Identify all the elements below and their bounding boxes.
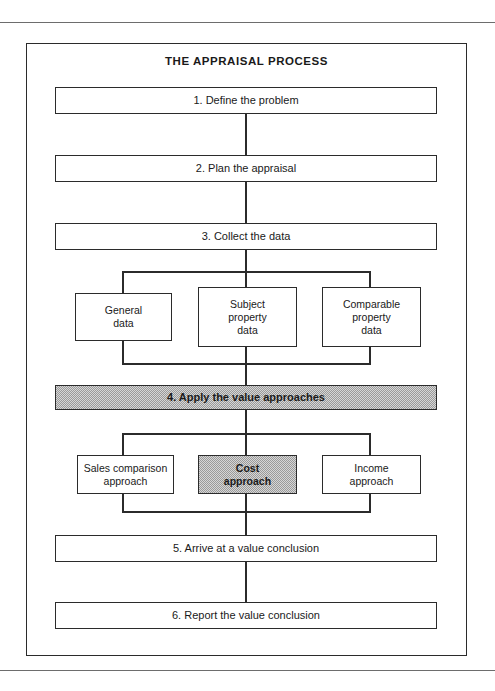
step-box-2[interactable]: 2. Plan the appraisal [55,155,437,182]
connector-step5-step6 [245,562,247,602]
connector-data-out-left [122,339,124,365]
connector-approach-out-left [122,492,124,513]
approach-label-sales-line1: Sales comparison [84,462,167,475]
data-label-subject-line2: property [228,311,267,324]
data-box-general[interactable]: General data [75,293,172,341]
step-label-1: 1. Define the problem [193,94,298,107]
data-box-comparable-property[interactable]: Comparable property data [322,287,421,347]
data-label-general-line2: data [105,317,142,330]
data-label-comparable-line1: Comparable [343,298,400,311]
approach-label-cost-line2: approach [222,475,273,488]
approach-label-income-line1: Income [350,462,394,475]
approach-box-sales-comparison[interactable]: Sales comparison approach [77,455,174,494]
step-label-3: 3. Collect the data [202,230,291,243]
approach-label-sales-comparison: Sales comparison approach [84,462,167,488]
figure-page: THE APPRAISAL PROCESS 1. Define the prob… [0,0,495,691]
step-label-5: 5. Arrive at a value conclusion [173,542,319,555]
approach-label-sales-line2: approach [84,475,167,488]
approach-box-cost[interactable]: Cost approach [198,455,297,494]
page-rule-bottom [0,670,495,671]
data-label-comparable: Comparable property data [343,298,400,337]
step-label-6: 6. Report the value conclusion [172,609,320,622]
data-label-comparable-line3: data [343,324,400,337]
connector-data-step4-stem [245,363,247,385]
data-label-general-line1: General [105,304,142,317]
data-label-general: General data [105,304,142,330]
step-label-4: 4. Apply the value approaches [165,391,327,404]
step-label-2: 2. Plan the appraisal [196,162,296,175]
connector-data-leg-left [122,271,124,295]
connector-approach-step5-stem [245,511,247,535]
connector-step1-step2 [245,114,247,155]
approach-label-income: Income approach [350,462,394,488]
connector-data-out-right [369,345,371,365]
connector-data-out-center [245,345,247,365]
step-box-5[interactable]: 5. Arrive at a value conclusion [55,535,437,562]
data-box-subject-property[interactable]: Subject property data [198,287,297,347]
connector-approach-out-center [245,492,247,513]
data-label-comparable-line2: property [343,311,400,324]
step-box-1[interactable]: 1. Define the problem [55,87,437,114]
connector-step4-stem [245,410,247,435]
connector-approach-leg-center [245,433,247,455]
data-label-subject: Subject property data [228,298,267,337]
approach-box-income[interactable]: Income approach [322,455,421,494]
step-box-3[interactable]: 3. Collect the data [55,223,437,250]
step-box-6[interactable]: 6. Report the value conclusion [55,602,437,629]
connector-step3-stem [245,250,247,273]
approach-label-income-line2: approach [350,475,394,488]
connector-approach-leg-left [122,433,124,455]
step-box-4[interactable]: 4. Apply the value approaches [55,385,437,410]
approach-label-cost: Cost approach [222,462,273,488]
connector-approach-leg-right [369,433,371,455]
page-rule-top [0,22,495,23]
figure-title: THE APPRAISAL PROCESS [26,54,467,68]
data-label-subject-line1: Subject [228,298,267,311]
approach-label-cost-line1: Cost [222,462,273,475]
connector-step2-step3 [245,182,247,223]
connector-approach-out-right [369,492,371,513]
data-label-subject-line3: data [228,324,267,337]
